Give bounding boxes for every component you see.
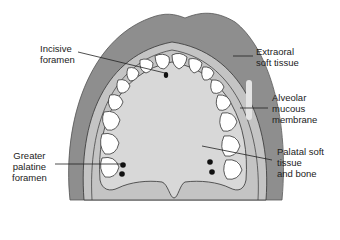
greater-palatine-foramen-right xyxy=(207,159,213,165)
label-line: tissue xyxy=(277,157,324,168)
label-line: and bone xyxy=(277,168,324,179)
label-line: Alveolar xyxy=(272,92,317,103)
label-palatal-soft-tissue-and-bone: Palatal soft tissue and bone xyxy=(277,146,324,179)
label-line: soft tissue xyxy=(256,57,299,68)
label-alveolar-mucous-membrane: Alveolar mucous membrane xyxy=(272,92,317,125)
lesser-palatine-foramen-right xyxy=(209,169,215,175)
label-extraoral-soft-tissue: Extraoral soft tissue xyxy=(256,46,299,68)
lesser-palatine-foramen-left xyxy=(119,171,125,177)
label-incisive-foramen: Incisive foramen xyxy=(40,43,75,65)
label-line: palatine xyxy=(12,161,47,172)
label-line: membrane xyxy=(272,114,317,125)
label-line: Palatal soft xyxy=(277,146,324,157)
label-greater-palatine-foramen: Greater palatine foramen xyxy=(12,150,47,183)
greater-palatine-foramen-left xyxy=(120,162,126,168)
label-line: Incisive xyxy=(40,43,75,54)
label-line: Greater xyxy=(12,150,47,161)
label-line: Extraoral xyxy=(256,46,299,57)
label-line: foramen xyxy=(40,54,75,65)
label-line: mucous xyxy=(272,103,317,114)
label-line: foramen xyxy=(12,172,47,183)
